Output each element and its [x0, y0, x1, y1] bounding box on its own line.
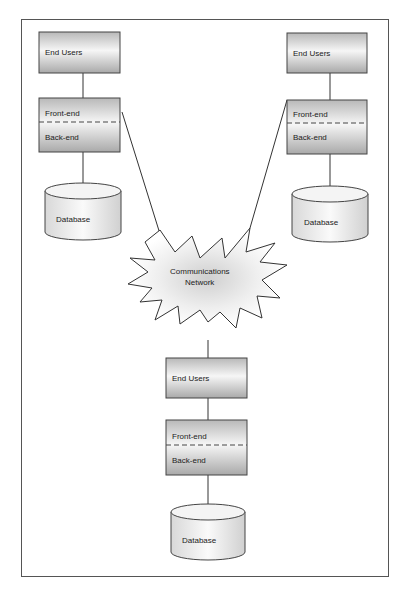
front-end-label: Front-end	[45, 109, 80, 118]
database-label: Database	[56, 215, 91, 224]
site-left: End Users Front-end Back-end Database	[39, 32, 121, 240]
end-users-box[interactable]: End Users	[166, 358, 247, 398]
distributed-database-diagram: End Users Front-end Back-end Database En…	[0, 0, 410, 590]
network-label-line1: Communications	[170, 267, 230, 276]
end-users-label: End Users	[293, 49, 330, 58]
database-cylinder[interactable]: Database	[292, 186, 368, 242]
database-cylinder[interactable]: Database	[171, 504, 245, 560]
back-end-label: Back-end	[172, 456, 206, 465]
communications-network[interactable]: Communications Network	[128, 228, 287, 328]
site-bottom: End Users Front-end Back-end Database	[166, 358, 247, 560]
end-users-box[interactable]: End Users	[287, 33, 367, 73]
end-users-box[interactable]: End Users	[39, 32, 120, 73]
end-users-label: End Users	[172, 374, 209, 383]
front-end-label: Front-end	[172, 432, 207, 441]
network-label-line2: Network	[185, 278, 215, 287]
front-end-label: Front-end	[293, 110, 328, 119]
frontend-backend-box[interactable]: Front-end Back-end	[166, 420, 247, 475]
end-users-label: End Users	[45, 48, 82, 57]
site-right: End Users Front-end Back-end Database	[287, 33, 368, 242]
frontend-backend-box[interactable]: Front-end Back-end	[287, 100, 367, 154]
frontend-backend-box[interactable]: Front-end Back-end	[39, 98, 120, 152]
back-end-label: Back-end	[45, 133, 79, 142]
database-label: Database	[182, 536, 217, 545]
back-end-label: Back-end	[293, 133, 327, 142]
database-cylinder[interactable]: Database	[45, 183, 121, 240]
database-label: Database	[304, 218, 339, 227]
